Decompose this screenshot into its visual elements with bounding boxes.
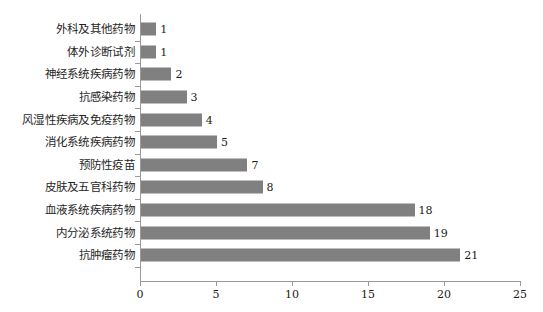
category-label: 皮肤及五官科药物: [45, 181, 135, 194]
x-tick-label: 5: [213, 288, 220, 301]
category-label: 抗肿瘤药物: [79, 249, 136, 262]
x-tick-mark: [216, 281, 217, 286]
x-tick-label: 0: [137, 288, 144, 301]
category-label: 风湿性疾病及免疫药物: [22, 113, 135, 126]
y-tick-mark: [135, 108, 140, 109]
bar: [141, 158, 247, 171]
bar-value-label: 3: [191, 91, 198, 104]
x-tick-label: 25: [513, 288, 527, 301]
bar-value-label: 7: [251, 158, 258, 171]
y-tick-mark: [135, 131, 140, 132]
bar: [141, 249, 460, 262]
y-tick-mark: [135, 63, 140, 64]
bar-value-label: 5: [221, 136, 228, 149]
bar-row: 外科及其他药物1: [0, 18, 543, 41]
plot-area: 外科及其他药物1体外诊断试剂1神经系统疾病药物2抗感染药物3风湿性疾病及免疫药物…: [0, 0, 543, 312]
bar-row: 血液系统疾病药物18: [0, 199, 543, 222]
bar-value-label: 4: [206, 113, 213, 126]
y-tick-mark: [135, 154, 140, 155]
y-tick-mark: [135, 221, 140, 222]
category-label: 抗感染药物: [79, 91, 136, 104]
x-tick-mark: [444, 281, 445, 286]
x-tick-mark: [520, 281, 521, 286]
bar: [141, 204, 415, 217]
bar-value-label: 18: [419, 204, 433, 217]
bar-value-label: 8: [267, 181, 274, 194]
bar-row: 体外诊断试剂1: [0, 41, 543, 64]
category-label: 消化系统疾病药物: [45, 136, 135, 149]
y-tick-mark: [135, 244, 140, 245]
bar-row: 内分泌系统药物19: [0, 221, 543, 244]
bar: [141, 68, 171, 81]
y-tick-mark: [135, 199, 140, 200]
y-tick-mark: [135, 267, 140, 268]
category-label: 内分泌系统药物: [56, 226, 135, 239]
bar-row: 神经系统疾病药物2: [0, 63, 543, 86]
bar-value-label: 19: [434, 226, 448, 239]
x-tick-mark: [140, 281, 141, 286]
x-axis-line: [140, 281, 521, 282]
category-label: 体外诊断试剂: [67, 46, 135, 59]
x-tick-mark: [368, 281, 369, 286]
bar: [141, 113, 202, 126]
bar-value-label: 1: [160, 23, 167, 36]
bar: [141, 91, 187, 104]
category-label: 预防性疫苗: [79, 159, 136, 172]
bar-row: 消化系统疾病药物5: [0, 131, 543, 154]
bar: [141, 181, 263, 194]
bar: [141, 23, 156, 36]
bar-row: 抗肿瘤药物21: [0, 244, 543, 267]
bar-row: 皮肤及五官科药物8: [0, 176, 543, 199]
bar: [141, 136, 217, 149]
y-tick-mark: [135, 41, 140, 42]
bar-value-label: 21: [464, 249, 478, 262]
bar-row: 风湿性疾病及免疫药物4: [0, 108, 543, 131]
bar-value-label: 1: [160, 45, 167, 58]
x-tick-label: 20: [437, 288, 451, 301]
category-label: 外科及其他药物: [56, 23, 135, 36]
bar: [141, 45, 156, 58]
x-tick-mark: [292, 281, 293, 286]
bar-value-label: 2: [175, 68, 182, 81]
x-tick-label: 10: [285, 288, 299, 301]
category-label: 血液系统疾病药物: [45, 204, 135, 217]
bar: [141, 226, 430, 239]
bar-row: 抗感染药物3: [0, 86, 543, 109]
y-tick-mark: [135, 86, 140, 87]
y-tick-mark: [135, 176, 140, 177]
bar-chart: 外科及其他药物1体外诊断试剂1神经系统疾病药物2抗感染药物3风湿性疾病及免疫药物…: [0, 0, 543, 312]
bar-row: 预防性疫苗7: [0, 154, 543, 177]
x-tick-label: 15: [361, 288, 375, 301]
category-label: 神经系统疾病药物: [45, 68, 135, 81]
